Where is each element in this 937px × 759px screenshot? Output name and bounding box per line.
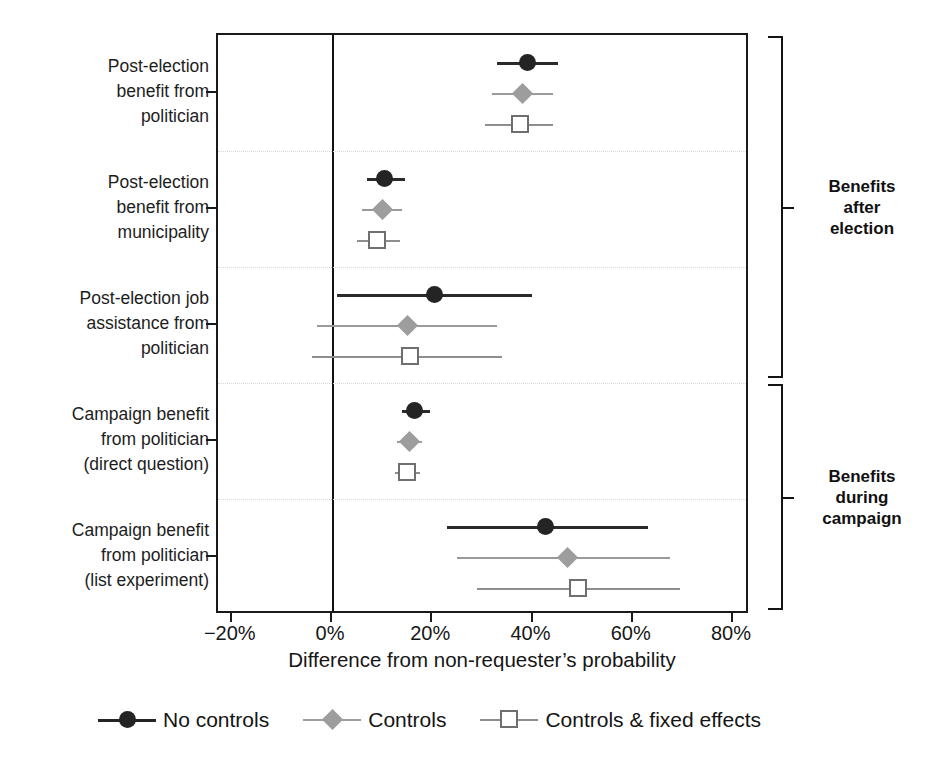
category-label: Campaign benefit from politician (direct… [0,402,209,477]
legend-label-no-controls: No controls [163,708,269,732]
point-estimate-marker [537,518,554,535]
x-axis-tick [531,613,533,622]
zero-reference-line [332,35,334,611]
point-estimate-marker [399,430,420,451]
annotation-bracket-label: Benefits during campaign [796,466,928,529]
annotation-bracket [768,36,783,378]
group-separator [218,383,746,384]
legend-label-controls-fixed-effects: Controls & fixed effects [545,708,761,732]
point-estimate-marker [397,314,418,335]
x-axis-tick [230,613,232,622]
x-axis-tick [631,613,633,622]
category-axis-tick [206,555,217,557]
group-separator [218,499,746,500]
point-estimate-marker [368,231,386,249]
legend-key-filled-circle-icon [98,710,156,730]
x-axis-tick-label: 60% [586,622,676,645]
annotation-bracket [768,384,783,610]
x-axis-tick-label: 80% [686,622,776,645]
legend-key-open-square-icon [480,710,538,730]
category-axis-tick [206,439,217,441]
x-axis-tick [731,613,733,622]
category-label: Post-election benefit from politician [0,54,209,129]
x-axis-tick-label: 0% [285,622,375,645]
legend-item-controls-fixed-effects: Controls & fixed effects [480,708,761,732]
coefficient-plot-figure: Post-election benefit from politicianPos… [0,0,937,759]
plot-area [216,33,748,613]
x-axis-tick-label: 40% [486,622,576,645]
point-estimate-marker [398,463,416,481]
point-estimate-marker [569,579,587,597]
point-estimate-marker [401,347,419,365]
legend-key-filled-diamond-icon [303,710,361,730]
point-estimate-marker [511,115,529,133]
point-estimate-marker [406,402,423,419]
category-label: Post-election job assistance from politi… [0,286,209,361]
x-axis-tick-label: 20% [385,622,475,645]
point-estimate-marker [557,546,578,567]
category-axis-tick [206,207,217,209]
legend-label-controls: Controls [368,708,446,732]
legend-item-no-controls: No controls [98,708,269,732]
x-axis-title: Difference from non-requester’s probabil… [216,648,748,672]
annotation-bracket-nub [783,207,794,209]
group-separator [218,151,746,152]
annotation-bracket-nub [783,497,794,499]
annotation-bracket-label: Benefits after election [796,176,928,239]
point-estimate-marker [426,286,443,303]
category-axis-tick [206,91,217,93]
legend: No controls Controls Controls & fixed ef… [98,700,888,740]
x-axis-tick [430,613,432,622]
category-label: Post-election benefit from municipality [0,170,209,245]
category-axis-tick [206,323,217,325]
point-estimate-marker [376,170,393,187]
point-estimate-marker [372,198,393,219]
point-estimate-marker [512,82,533,103]
group-separator [218,267,746,268]
point-estimate-marker [519,54,536,71]
category-label: Campaign benefit from politician (list e… [0,518,209,593]
x-axis-tick-label: −20% [185,622,275,645]
x-axis-tick [330,613,332,622]
legend-item-controls: Controls [303,708,446,732]
